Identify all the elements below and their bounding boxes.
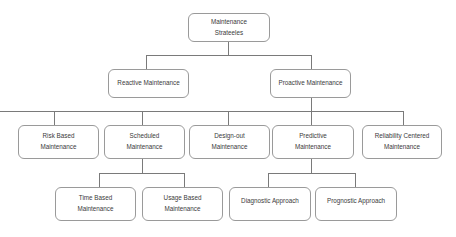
node-label: Design-out Maintenance	[205, 131, 255, 152]
connector	[228, 111, 229, 125]
node-label: Time Based Maintenance	[71, 193, 121, 214]
connector	[146, 55, 147, 69]
node-predictive-maintenance: Predictive Maintenance	[272, 125, 354, 159]
node-risk-based-maintenance: Risk Based Maintenance	[18, 125, 99, 159]
node-label: Reliability Centered Maintenance	[371, 131, 433, 152]
node-label: Scheduled Maintenance	[120, 131, 170, 152]
node-label: Prognostic Approach	[327, 196, 385, 207]
connector	[99, 173, 185, 174]
node-proactive-maintenance: Proactive Maintenance	[270, 69, 351, 98]
node-label: Proactive Maintenance	[278, 78, 342, 89]
connector	[0, 111, 404, 112]
node-label: Predictive Maintenance	[288, 131, 338, 152]
node-prognostic-approach: Prognostic Approach	[315, 187, 397, 221]
connector	[311, 111, 312, 125]
node-maintenance-strategies: Maintenance Strateeles	[188, 13, 270, 42]
connector	[403, 111, 404, 125]
connector	[311, 55, 312, 69]
node-label: Diagnostic Approach	[241, 196, 299, 207]
node-label: Risk Based Maintenance	[34, 131, 84, 152]
node-reactive-maintenance: Reactive Maintenance	[108, 69, 189, 98]
connector	[142, 111, 143, 125]
connector	[268, 173, 269, 187]
connector	[355, 173, 356, 187]
node-time-based-maintenance: Time Based Maintenance	[55, 187, 136, 221]
connector	[54, 111, 55, 125]
connector	[99, 173, 100, 187]
connector	[311, 158, 312, 173]
node-usage-based-maintenance: Usage Based Maintenance	[142, 187, 223, 221]
node-design-out-maintenance: Design-out Maintenance	[189, 125, 270, 159]
node-reliability-centered-maintenance: Reliability Centered Maintenance	[362, 125, 442, 159]
connector	[184, 173, 185, 187]
node-label: Reactive Maintenance	[117, 78, 179, 89]
connector	[146, 55, 312, 56]
node-scheduled-maintenance: Scheduled Maintenance	[104, 125, 185, 159]
node-label: Usage Based Maintenance	[158, 193, 208, 214]
connector	[228, 41, 229, 55]
connector	[268, 173, 356, 174]
connector	[142, 158, 143, 173]
connector	[311, 97, 312, 111]
node-diagnostic-approach: Diagnostic Approach	[229, 187, 311, 221]
node-label: Maintenance Strateeles	[203, 17, 255, 38]
